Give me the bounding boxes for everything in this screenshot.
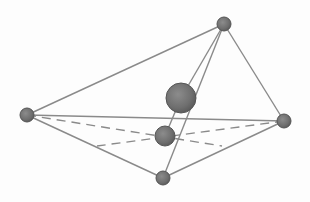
edge-left-bottom <box>27 115 163 178</box>
diagram-canvas <box>0 0 310 202</box>
node-right <box>277 114 291 128</box>
dashed-edge-0 <box>27 115 222 146</box>
nodes <box>20 17 291 185</box>
node-bottom <box>156 171 170 185</box>
node-center-large <box>166 83 196 113</box>
edge-left-right <box>27 115 284 121</box>
edge-top-right <box>224 24 284 121</box>
node-left <box>20 108 34 122</box>
pyramid-diagram <box>0 0 310 202</box>
node-center-lower <box>155 126 175 146</box>
node-top <box>217 17 231 31</box>
solid-edges <box>27 24 284 178</box>
